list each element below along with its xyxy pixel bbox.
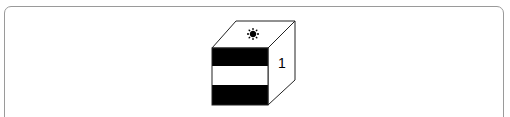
cube-front-face (212, 48, 268, 105)
sun-icon (247, 28, 259, 40)
cube-diagram: 1 (0, 0, 510, 117)
side-face-label: 1 (278, 55, 286, 71)
